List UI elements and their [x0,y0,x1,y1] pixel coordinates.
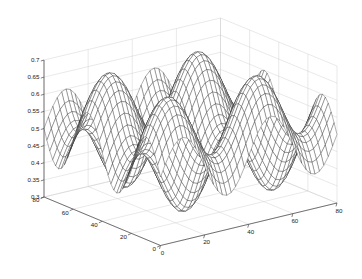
yaxis-tick-label: 40 [91,221,98,228]
zaxis-tick-label: 0.7 [31,56,40,63]
zaxis-tick-label: 0.5 [31,125,40,132]
xaxis-tick-label: 20 [203,238,210,245]
zaxis-tick-label: 0.55 [27,107,40,114]
xaxis-tick-label: 80 [336,207,343,214]
xaxis-tick-label: 60 [291,217,298,224]
zaxis-tick-label: 0.65 [27,73,40,80]
zaxis-tick-label: 0.6 [31,90,40,97]
yaxis-tick-label: 20 [120,233,127,240]
yaxis-tick-label: 60 [62,209,69,216]
yaxis-tick-label: 0 [153,245,157,252]
xaxis-tick-label: 40 [247,228,254,235]
yaxis-tick-label: 80 [33,196,40,203]
zaxis-tick-label: 0.4 [31,159,40,166]
zaxis-tick-label: 0.45 [27,142,40,149]
zaxis-tick-label: 0.35 [27,176,40,183]
surface-plot-3d: 0.30.350.40.450.50.550.60.650.7020406080… [0,0,362,279]
figure-canvas: 0.30.350.40.450.50.550.60.650.7020406080… [0,0,362,279]
xaxis-tick-label: 0 [161,249,165,256]
